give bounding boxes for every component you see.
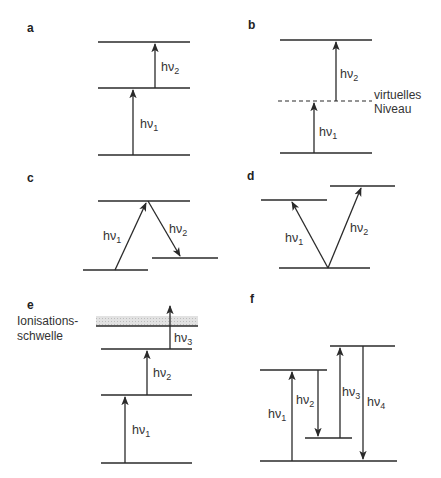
photon-label-2: hν2: [296, 393, 314, 409]
virtual-level-label-line1: virtuelles: [374, 88, 421, 102]
photon-label-4: hν4: [367, 395, 385, 411]
panel-label-c: c: [27, 171, 34, 185]
photon-label-1: hν1: [268, 407, 286, 423]
photon-label-1: hν1: [140, 117, 158, 133]
photon-label-2: hν2: [350, 221, 368, 237]
panel-c: c hν1 hν2: [27, 171, 218, 270]
photon-label-1: hν1: [285, 231, 303, 247]
panel-label-f: f: [250, 292, 255, 306]
energy-level-diagram: a hν1 hν2 b hν1 hν2 virtuelles Niveau c …: [0, 0, 441, 478]
panel-b: b hν1 hν2 virtuelles Niveau: [248, 18, 421, 153]
ionization-threshold-label-line2: schwelle: [17, 329, 63, 343]
photon-label-2: hν2: [153, 366, 171, 382]
ionization-threshold-label-line1: Ionisations-: [17, 314, 78, 328]
panel-a: a hν1 hν2: [27, 21, 190, 155]
photon-label-3: hν3: [174, 331, 192, 347]
photon-label-2: hν2: [169, 222, 187, 238]
panel-label-b: b: [248, 18, 255, 32]
photon-label-2: hν2: [161, 60, 179, 76]
virtual-level-label-line2: Niveau: [374, 102, 411, 116]
panel-e: e hν1 hν2 hν3 Ionisations- schwelle: [17, 298, 198, 463]
photon-label-1: hν1: [319, 125, 337, 141]
photon-label-2: hν2: [340, 67, 358, 83]
panel-d: d hν1 hν2: [247, 169, 395, 268]
panel-f: f hν1 hν2 hν3 hν4: [250, 292, 397, 461]
panel-label-d: d: [247, 169, 254, 183]
ionization-continuum-band: [96, 316, 198, 326]
photon-label-3: hν3: [342, 385, 360, 401]
panel-label-e: e: [27, 298, 34, 312]
photon-label-1: hν1: [103, 229, 121, 245]
panel-label-a: a: [27, 21, 34, 35]
photon-label-1: hν1: [132, 423, 150, 439]
